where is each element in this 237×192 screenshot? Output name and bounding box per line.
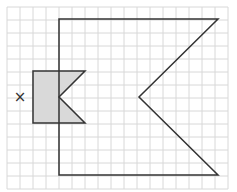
grid-diagram: × — [0, 0, 237, 192]
center-of-enlargement-marker: × — [14, 88, 27, 106]
large-outline-shape — [59, 19, 218, 175]
